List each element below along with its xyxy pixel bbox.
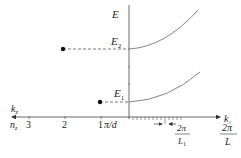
fraction-2pi-L-num: 2π — [222, 122, 233, 133]
subband-e2-curve — [129, 10, 198, 49]
tick-1: 1 — [98, 119, 103, 130]
level-1-dot — [98, 100, 102, 104]
kz-label: kz — [11, 103, 18, 115]
level-2-dot — [61, 47, 65, 51]
fraction-2pi-L1-num: 2π — [177, 123, 187, 133]
subband-e1-curve — [129, 72, 200, 102]
energy-label: E — [111, 8, 119, 20]
tick-3: 3 — [26, 119, 31, 130]
fraction-2pi-L-den: L — [224, 136, 231, 147]
e1-label: E1 — [113, 87, 125, 102]
tick-2: 2 — [62, 119, 67, 130]
k-ticks — [133, 117, 181, 124]
pi-over-d-label: π/d — [104, 119, 118, 130]
nz-label: nz — [10, 119, 18, 131]
fraction-2pi-L1-den: L1 — [177, 136, 186, 147]
subband-diagram: E E2 E1 kz nz 3 2 1 π/d k// 2π L1 2π L — [0, 0, 241, 158]
e2-label: E2 — [110, 35, 122, 50]
